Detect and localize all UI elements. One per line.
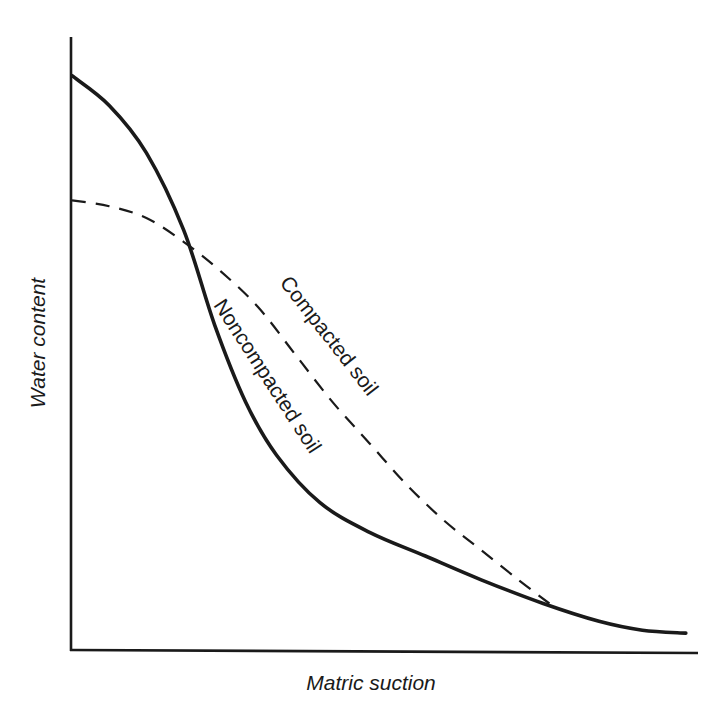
x-axis: [70, 650, 698, 653]
label-compacted-soil: Compacted soil: [276, 271, 383, 399]
y-axis-title: Water content: [26, 277, 49, 409]
series-layer: [72, 76, 686, 633]
water-retention-chart: Matric suction Water content Compacted s…: [0, 0, 726, 717]
series-line-compacted-soil: [72, 200, 549, 603]
x-axis-title: Matric suction: [306, 671, 436, 694]
series-line-noncompacted-soil: [72, 76, 686, 633]
